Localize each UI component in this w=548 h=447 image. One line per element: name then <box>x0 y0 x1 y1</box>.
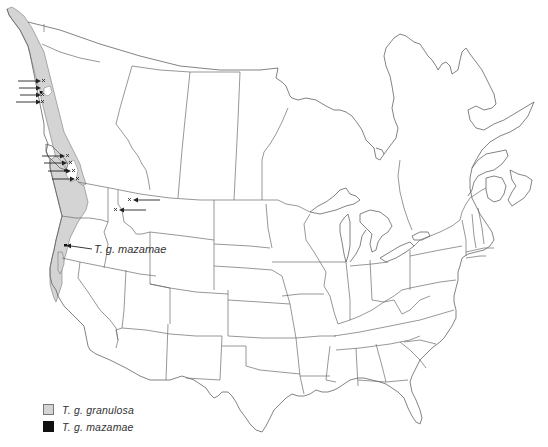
ga-fl-border <box>358 380 408 382</box>
nd-mn-border <box>266 204 272 248</box>
ut-wy-co <box>150 270 170 324</box>
in-oh-border <box>370 260 372 300</box>
nc-sc-border <box>404 340 436 344</box>
nv-ut-border <box>122 270 126 328</box>
legend-item-mazamae: T. g. mazamae <box>43 418 134 435</box>
nv-az-border <box>116 328 122 348</box>
manitoba-ontario-border <box>262 108 288 200</box>
ct-ri-border <box>466 256 486 258</box>
ks-mo-border <box>282 276 296 338</box>
mexico-border <box>84 326 164 380</box>
la-ms-border <box>326 346 336 382</box>
al-ga-border <box>376 344 386 382</box>
granulosa-range-sierra-tail <box>58 252 64 274</box>
saskatchewan-manitoba-border <box>234 72 240 200</box>
ok-panhandle <box>222 346 300 374</box>
ut-az-border <box>122 328 222 336</box>
arrow-marker <box>114 208 146 213</box>
legend-label: T. g. granulosa <box>62 404 134 416</box>
ks-ok-border <box>228 336 296 338</box>
ia-mo-border <box>282 294 324 296</box>
ok-ar-border <box>296 338 300 376</box>
range-map: T. g. mazamae <box>0 0 548 447</box>
gray-swatch-icon <box>43 404 54 415</box>
bc-alberta-border <box>116 66 150 190</box>
ga-sc-border <box>400 342 426 368</box>
black-swatch-icon <box>43 421 54 432</box>
legend-label: T. g. mazamae <box>62 421 134 433</box>
bc-yukon-border <box>42 44 100 62</box>
coastline <box>7 9 534 432</box>
mazamae-callout-label: T. g. mazamae <box>94 243 166 255</box>
ms-al-border <box>356 348 358 386</box>
boundaries <box>42 24 494 394</box>
lake-michigan <box>340 214 350 262</box>
hudson-bay-coast <box>276 34 534 188</box>
az-nm-border <box>166 324 168 380</box>
ca-nv-border <box>78 262 118 340</box>
canada-us-border <box>78 182 310 212</box>
il-ky-border <box>338 300 394 324</box>
tx-la-border <box>300 376 304 394</box>
pa-ny-border <box>410 246 462 256</box>
atlantic-coast <box>392 188 494 424</box>
mi-oh-in-border <box>350 262 388 266</box>
sd-ne-border <box>214 266 282 276</box>
gaspe-coast <box>468 150 508 196</box>
oh-wv-ky <box>372 288 410 302</box>
nd-sd-border <box>214 244 270 248</box>
wv-va-border <box>394 296 430 314</box>
nm-tx-border <box>186 336 222 380</box>
ky-tn-border <box>334 310 454 336</box>
nh-me-border <box>478 208 484 244</box>
il-in-border <box>346 262 350 320</box>
vt-nh-border <box>472 214 476 248</box>
id-mt-border <box>118 190 150 234</box>
lake-ontario <box>412 232 430 240</box>
ma-border <box>466 248 494 252</box>
ia-il-border <box>320 262 338 324</box>
canada-us-border-east <box>414 188 486 246</box>
ny-vt-border <box>462 220 466 256</box>
lake-superior <box>310 188 360 214</box>
lake-erie <box>380 242 414 262</box>
alaska-yukon-border <box>28 22 278 70</box>
mazamae-callout: T. g. mazamae <box>66 243 166 255</box>
mazamae-point <box>64 244 67 247</box>
mt-wy-border <box>150 232 214 240</box>
or-ca-nv-border <box>62 258 156 276</box>
arrow-marker <box>19 86 41 91</box>
nova-scotia-coast <box>508 170 532 206</box>
legend-item-granulosa: T. g. granulosa <box>43 401 134 418</box>
lake-huron <box>360 210 392 252</box>
arrow-marker <box>128 198 160 203</box>
x-locality-marker <box>114 208 117 211</box>
mn-wi-border <box>304 214 320 262</box>
pa-md-border <box>410 280 456 288</box>
new-brunswick-coast <box>486 176 506 202</box>
great-lakes <box>310 188 430 262</box>
mo-ar-border <box>296 336 336 338</box>
granulosa-range-alaska-bc <box>7 7 86 186</box>
wy-co-border <box>150 284 228 294</box>
x-locality-marker <box>128 198 131 201</box>
alberta-saskatchewan-border <box>178 72 190 198</box>
ontario-quebec-border <box>398 160 412 230</box>
legend: T. g. granulosa T. g. mazamae <box>43 401 134 435</box>
ne-ks-border <box>228 300 290 304</box>
michigan-peninsula <box>350 230 366 262</box>
james-bay-coast <box>376 148 384 154</box>
